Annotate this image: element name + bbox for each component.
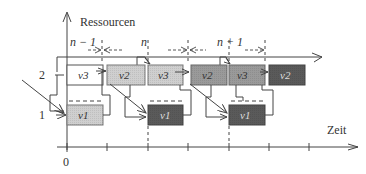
task-v1-row1-2: v1 — [229, 105, 265, 125]
task-v2-row2-1: v2 — [107, 65, 145, 85]
period-label-n: n — [141, 35, 147, 49]
task-v3-row2-4: v3 — [229, 65, 265, 85]
row-2-tasks: v3 v2 v3 v2 v3 v2 — [67, 65, 305, 85]
origin-label: 0 — [63, 155, 69, 169]
resource-label-2: 2 — [39, 68, 45, 82]
svg-text:v2: v2 — [202, 69, 213, 81]
svg-text:v2: v2 — [280, 69, 291, 81]
task-v3-row2-0: v3 — [67, 65, 103, 85]
period-label-n-minus-1: n − 1 — [70, 35, 96, 49]
period-label-n-plus-1: n + 1 — [217, 35, 243, 49]
svg-text:v1: v1 — [78, 109, 88, 121]
task-v1-row1-0: v1 — [67, 105, 103, 125]
svg-text:v3: v3 — [237, 69, 248, 81]
resource-label-1: 1 — [39, 108, 45, 122]
pipeline-schedule-diagram: Ressourcen Zeit 0 1 2 n − 1 n n + 1 — [0, 0, 366, 174]
period-boundaries — [102, 40, 265, 144]
svg-text:v2: v2 — [119, 69, 130, 81]
task-v1-row1-1: v1 — [148, 105, 183, 125]
svg-text:v3: v3 — [78, 69, 89, 81]
task-v3-row2-2: v3 — [148, 65, 183, 85]
row-1-tasks: v1 v1 v1 — [67, 101, 265, 125]
x-axis — [57, 143, 358, 152]
x-axis-label: Zeit — [327, 123, 347, 137]
y-axis-label: Ressourcen — [80, 15, 135, 29]
svg-text:v1: v1 — [160, 109, 170, 121]
task-v2-row2-5: v2 — [269, 65, 305, 85]
task-v2-row2-3: v2 — [191, 65, 227, 85]
svg-text:v1: v1 — [240, 109, 250, 121]
svg-text:v3: v3 — [158, 69, 169, 81]
